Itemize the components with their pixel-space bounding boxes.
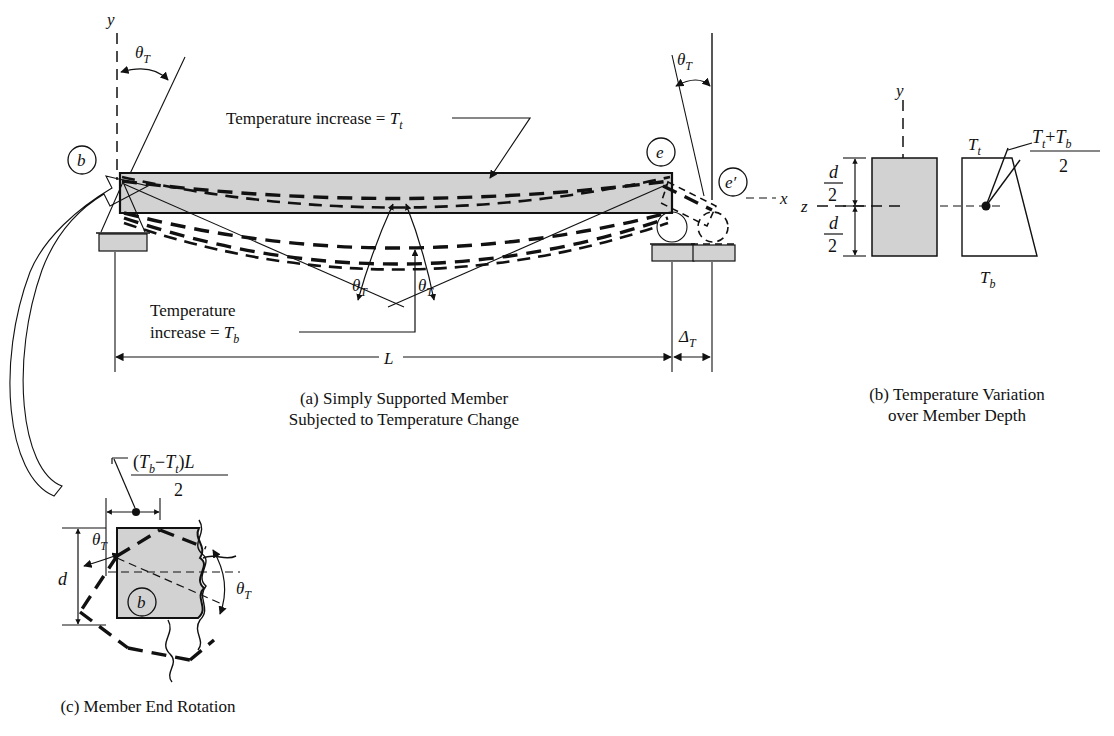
panel-c-formula-denominator: 2 [174, 480, 183, 500]
panel-b-axis-y-label: y [894, 81, 904, 100]
engineering-figure: y θT b θT θT Temperature increase = Tt [0, 0, 1114, 736]
caption-a-line2: Subjected to Temperature Change [289, 410, 519, 429]
depth-lower-denominator: 2 [828, 236, 837, 256]
panel-c-depth-label: d [58, 569, 68, 589]
avg-formula-denominator: 2 [1059, 156, 1068, 176]
depth-upper-numerator: d [829, 162, 839, 182]
centroid-dot [982, 202, 991, 211]
caption-a-line1: (a) Simply Supported Member [300, 389, 509, 408]
roller-support-base [652, 245, 694, 261]
axis-y-label: y [105, 10, 115, 29]
panel-c-offset-dot [132, 508, 140, 516]
depth-upper-denominator: 2 [828, 185, 837, 205]
axis-x-label: x [779, 189, 788, 208]
panel-b-axis-z-label: z [800, 197, 808, 216]
depth-lower-numerator: d [829, 213, 839, 233]
roller-displaced-base [693, 245, 735, 261]
dim-L-label: L [383, 349, 393, 368]
panel-c-node-tag-b-label: b [137, 593, 146, 612]
node-tag-b-label: b [77, 151, 86, 170]
caption-b-line2: over Member Depth [888, 406, 1026, 425]
bottom-temperature-label-line1: Temperature [150, 301, 236, 320]
pin-support-base [99, 234, 147, 251]
cross-section-rect [872, 158, 937, 256]
page-background [0, 0, 1114, 736]
caption-b-line1: (b) Temperature Variation [869, 385, 1045, 404]
figure-root: y θT b θT θT Temperature increase = Tt [0, 0, 1114, 736]
caption-c: (c) Member End Rotation [60, 697, 236, 716]
node-tag-e-prime-label: e′ [725, 173, 737, 192]
node-tag-e-label: e [656, 143, 664, 162]
